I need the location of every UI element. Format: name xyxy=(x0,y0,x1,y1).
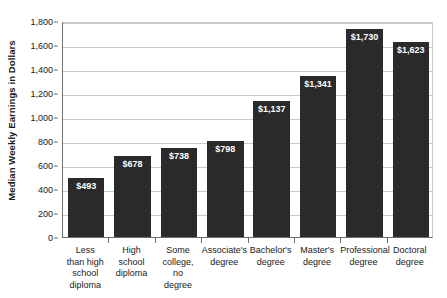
x-axis-category-label-line: Master's xyxy=(294,245,340,257)
bar-value-label: $738 xyxy=(161,151,198,161)
y-axis-tick-mark xyxy=(54,46,58,47)
x-axis-tick-mark xyxy=(387,238,388,243)
x-axis-category-label: Somecollege,nodegree xyxy=(155,245,201,291)
x-axis-category-label-line: diploma xyxy=(108,268,154,280)
x-axis-tick-mark xyxy=(108,238,109,243)
bar: $1,730 xyxy=(346,29,383,237)
x-axis-category-label-line: Some xyxy=(155,245,201,257)
bars-layer: $493$678$738$798$1,137$1,341$1,730$1,623 xyxy=(63,23,432,237)
x-axis-category-label: Highschooldiploma xyxy=(108,245,154,280)
x-axis-tick-mark xyxy=(248,238,249,243)
y-axis-tick-mark xyxy=(54,22,58,23)
y-axis-tick-mark xyxy=(54,142,58,143)
plot-area: $493$678$738$798$1,137$1,341$1,730$1,623 xyxy=(62,22,433,238)
y-axis-tick-mark xyxy=(54,94,58,95)
bar: $798 xyxy=(207,141,244,237)
y-axis-tick-mark xyxy=(54,190,58,191)
bar-value-label: $798 xyxy=(207,144,244,154)
x-axis-category-label: Professionaldegree xyxy=(340,245,386,268)
x-axis-category-label: Master'sdegree xyxy=(294,245,340,268)
bar-value-label: $1,341 xyxy=(300,79,337,89)
x-axis-category-label-line: Less xyxy=(62,245,108,257)
x-axis-tick-mark xyxy=(155,238,156,243)
bar: $1,623 xyxy=(393,42,430,237)
x-axis-tick-mark xyxy=(294,238,295,243)
bar-value-label: $1,730 xyxy=(346,32,383,42)
bar-value-label: $1,137 xyxy=(253,104,290,114)
x-axis-category-label-line: diploma xyxy=(62,280,108,292)
x-axis-category-label: Doctoraldegree xyxy=(387,245,433,268)
y-axis-tick-label: 1,400 xyxy=(30,65,53,75)
x-axis-tick-marks xyxy=(62,238,433,243)
y-axis-title: Median Weekly Earnings in Dollars xyxy=(0,0,22,240)
x-axis-category-label-line: degree xyxy=(387,257,433,269)
y-axis-tick-label: 600 xyxy=(38,161,53,171)
x-axis-category-label: Bachelor'sdegree xyxy=(248,245,294,268)
bar-value-label: $493 xyxy=(68,181,105,191)
x-axis-category-label: Lessthan highschooldiploma xyxy=(62,245,108,291)
y-axis-tick-label: 1,800 xyxy=(30,17,53,27)
x-axis-category-label-line: college, xyxy=(155,257,201,269)
bar-chart: Median Weekly Earnings in Dollars 020040… xyxy=(0,0,447,298)
x-axis-category-labels: Lessthan highschooldiplomaHighschooldipl… xyxy=(62,245,433,295)
y-axis-title-text: Median Weekly Earnings in Dollars xyxy=(6,40,17,200)
bar: $493 xyxy=(68,178,105,237)
x-axis-category-label-line: degree xyxy=(340,257,386,269)
x-axis-category-label-line: school xyxy=(62,268,108,280)
x-axis-tick-mark xyxy=(201,238,202,243)
y-axis-tick-labels: 02004006008001,0001,2001,4001,6001,800 xyxy=(20,22,58,238)
x-axis-category-label-line: Doctoral xyxy=(387,245,433,257)
y-axis-tick-label: 0 xyxy=(48,233,53,243)
y-axis-tick-mark xyxy=(54,214,58,215)
y-axis-tick-mark xyxy=(54,238,58,239)
y-axis-tick-label: 400 xyxy=(38,185,53,195)
y-axis-tick-label: 800 xyxy=(38,137,53,147)
y-axis-tick-label: 200 xyxy=(38,209,53,219)
x-axis-category-label-line: High xyxy=(108,245,154,257)
x-axis-category-label-line: no xyxy=(155,268,201,280)
bar: $738 xyxy=(161,148,198,237)
x-axis-tick-mark xyxy=(340,238,341,243)
x-axis-category-label-line: than high xyxy=(62,257,108,269)
bar: $1,341 xyxy=(300,76,337,237)
x-axis-category-label-line: degree xyxy=(248,257,294,269)
y-axis-tick-mark xyxy=(54,166,58,167)
x-axis-category-label-line: Bachelor's xyxy=(248,245,294,257)
bar: $678 xyxy=(114,156,151,237)
x-axis-category-label-line: Associate's xyxy=(201,245,247,257)
y-axis-tick-mark xyxy=(54,118,58,119)
bar-value-label: $678 xyxy=(114,159,151,169)
x-axis-category-label-line: degree xyxy=(155,280,201,292)
x-axis-category-label-line: degree xyxy=(294,257,340,269)
y-axis-tick-label: 1,600 xyxy=(30,41,53,51)
bar-value-label: $1,623 xyxy=(393,45,430,55)
x-axis-category-label-line: Professional xyxy=(340,245,386,257)
y-axis-tick-mark xyxy=(54,70,58,71)
x-axis-category-label-line: school xyxy=(108,257,154,269)
y-axis-tick-label: 1,200 xyxy=(30,89,53,99)
y-axis-tick-label: 1,000 xyxy=(30,113,53,123)
x-axis-category-label: Associate'sdegree xyxy=(201,245,247,268)
x-axis-category-label-line: degree xyxy=(201,257,247,269)
bar: $1,137 xyxy=(253,101,290,237)
